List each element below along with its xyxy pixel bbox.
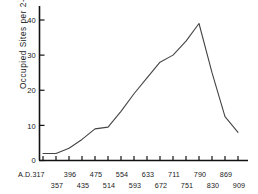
axis-lines bbox=[39, 6, 248, 161]
chart-container: Occupied Sites per 2-Katun Period 40 30 … bbox=[0, 0, 258, 194]
data-series-line bbox=[43, 24, 238, 154]
plot-area bbox=[0, 0, 258, 194]
